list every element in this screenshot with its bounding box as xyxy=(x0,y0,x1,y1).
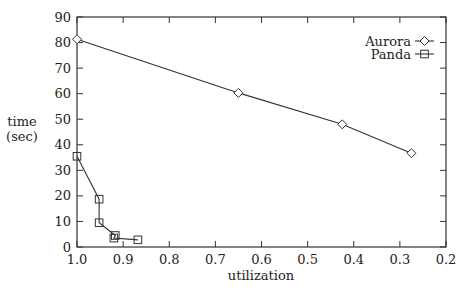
x-axis-label: utilization xyxy=(228,268,295,283)
x-tick-label: 0.3 xyxy=(390,252,411,267)
x-tick-label: 0.4 xyxy=(343,252,364,267)
series-lines xyxy=(73,35,416,244)
y-tick-label: 80 xyxy=(54,35,71,50)
x-tick-label: 0.6 xyxy=(251,252,272,267)
diamond-marker-icon xyxy=(338,120,347,129)
series-line xyxy=(77,39,411,153)
y-axis-label-line2: (sec) xyxy=(6,129,38,144)
y-tick-label: 60 xyxy=(54,86,71,101)
y-tick-label: 40 xyxy=(54,137,71,152)
series-line xyxy=(77,156,138,240)
diamond-marker-icon xyxy=(234,88,243,97)
y-tick-label: 20 xyxy=(54,188,71,203)
y-tick-label: 10 xyxy=(54,214,71,229)
x-tick-label: 0.2 xyxy=(436,252,457,267)
y-tick-label: 0 xyxy=(63,240,71,255)
y-axis-label-line1: time xyxy=(7,114,37,129)
y-tick-label: 30 xyxy=(54,163,71,178)
x-tick-label: 0.7 xyxy=(205,252,226,267)
legend: AuroraPanda xyxy=(364,34,434,62)
x-tick-label: 0.9 xyxy=(113,252,134,267)
series-aurora xyxy=(73,35,416,158)
line-chart: 1.00.90.80.70.60.50.40.30.2 010203040506… xyxy=(0,0,468,289)
diamond-marker-icon xyxy=(407,149,416,158)
series-panda xyxy=(73,152,141,243)
x-tick-label: 0.8 xyxy=(159,252,180,267)
diamond-marker-icon xyxy=(420,37,429,46)
y-tick-label: 90 xyxy=(54,10,71,25)
y-tick-label: 50 xyxy=(54,112,71,127)
x-tick-label: 0.5 xyxy=(297,252,318,267)
legend-label: Panda xyxy=(371,47,412,62)
y-tick-label: 70 xyxy=(54,61,71,76)
